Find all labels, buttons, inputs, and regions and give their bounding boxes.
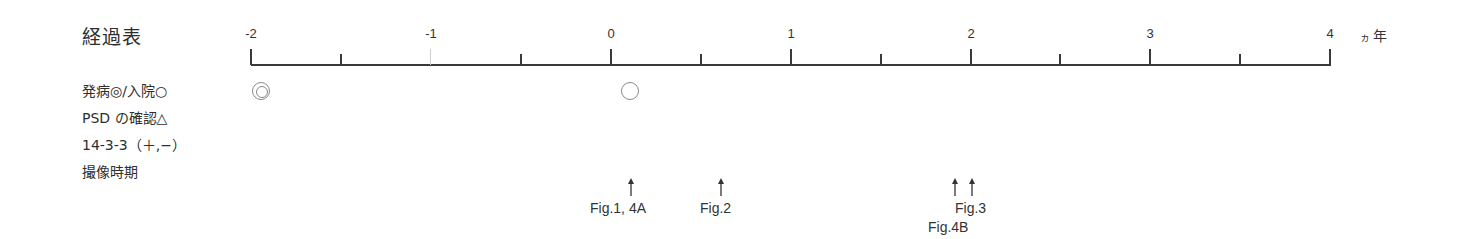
- tick-label: 1: [787, 26, 794, 41]
- row-label-psd: PSD の確認△: [82, 107, 167, 127]
- minor-tick: [340, 54, 342, 65]
- tick-label: -1: [425, 26, 437, 41]
- minor-tick: [1059, 54, 1061, 65]
- tick-label: -2: [245, 26, 257, 41]
- admission-circle-icon: [621, 82, 639, 100]
- imaging-label-fig1-4a: Fig.1, 4A: [590, 200, 646, 216]
- unit-main: 年: [1373, 28, 1387, 44]
- major-tick: [250, 49, 252, 65]
- tick-label: 2: [967, 26, 974, 41]
- major-tick: [1329, 49, 1331, 65]
- arrow-up-icon: [967, 178, 977, 196]
- unit-small: ヵ: [1360, 32, 1370, 43]
- arrow-up-icon: [626, 178, 636, 196]
- minor-tick: [520, 54, 522, 65]
- imaging-label-fig2: Fig.2: [700, 200, 731, 216]
- row-label-14-3-3: 14-3-3（＋,−）: [82, 134, 186, 154]
- major-tick: [790, 49, 792, 65]
- tick-label: 0: [607, 26, 614, 41]
- tick-label: 4: [1326, 26, 1333, 41]
- axis-unit-label: ヵ年: [1360, 25, 1387, 45]
- arrow-up-icon: [950, 178, 960, 196]
- tick-label: 3: [1146, 26, 1153, 41]
- row-label-onset-admission: 発病◎/入院○: [82, 80, 167, 100]
- major-tick: [610, 49, 612, 65]
- row-label-imaging: 撮像時期: [82, 161, 138, 181]
- imaging-label-fig4b: Fig.4B: [928, 219, 968, 235]
- major-tick: [430, 49, 431, 65]
- arrow-up-icon: [716, 178, 726, 196]
- minor-tick: [880, 54, 882, 65]
- minor-tick: [1239, 54, 1241, 65]
- imaging-label-fig3: Fig.3: [955, 200, 986, 216]
- major-tick: [970, 49, 972, 65]
- onset-double-circle-icon: [252, 82, 270, 100]
- diagram-title: 経過表: [82, 22, 142, 49]
- major-tick: [1149, 49, 1151, 65]
- minor-tick: [700, 54, 702, 65]
